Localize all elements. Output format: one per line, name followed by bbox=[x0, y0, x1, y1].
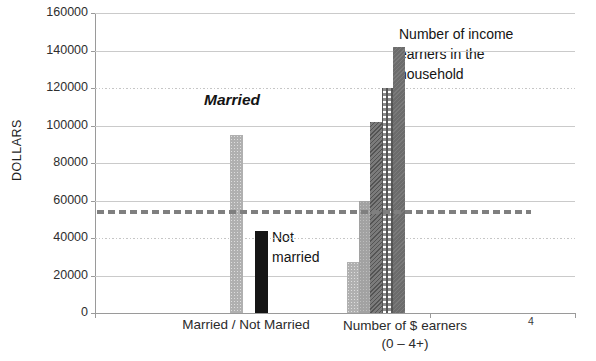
y-axis-tick bbox=[91, 51, 95, 52]
annotation-married: Married bbox=[204, 91, 260, 109]
x-axis-category-earners-line1: Number of $ earners bbox=[325, 317, 485, 335]
y-axis-tick-label: 160000 bbox=[32, 5, 88, 19]
bar-0 bbox=[347, 262, 359, 313]
y-axis-tick-label: 60000 bbox=[32, 193, 88, 207]
x-axis-line bbox=[95, 313, 576, 314]
y-axis-tick bbox=[91, 238, 95, 239]
gridline bbox=[95, 51, 575, 52]
gridline bbox=[95, 238, 575, 239]
gridline bbox=[95, 88, 575, 89]
y-axis-tick bbox=[91, 13, 95, 14]
gridline bbox=[95, 126, 575, 127]
x-axis-tick bbox=[430, 314, 431, 318]
x-axis-category-married: Married / Not Married bbox=[146, 317, 346, 332]
x-axis-tick bbox=[95, 314, 96, 318]
y-axis-tick-label: 140000 bbox=[32, 43, 88, 57]
annotation-not-married: Not married bbox=[272, 228, 336, 267]
bar-4+ bbox=[393, 47, 405, 313]
bar-2 bbox=[370, 122, 382, 313]
y-axis-tick bbox=[91, 201, 95, 202]
x-axis-category-earners: Number of $ earners (0 – 4+) bbox=[325, 317, 485, 353]
x-axis-tick bbox=[575, 314, 576, 318]
y-axis-tick-label: 40000 bbox=[32, 230, 88, 244]
page-number: 4 bbox=[528, 315, 534, 327]
gridline bbox=[95, 276, 575, 277]
bar-married bbox=[230, 135, 243, 313]
gridline bbox=[95, 13, 575, 14]
y-axis-tick-label: 20000 bbox=[32, 268, 88, 282]
x-axis-category-earners-line2: (0 – 4+) bbox=[325, 335, 485, 353]
y-axis-tick-label: 0 bbox=[32, 305, 88, 319]
y-axis-tick bbox=[91, 276, 95, 277]
bar-1 bbox=[359, 201, 371, 314]
gridline bbox=[95, 163, 575, 164]
y-axis-title: DOLLARS bbox=[10, 109, 24, 191]
annotation-income-earners: Number of income earners in the househol… bbox=[399, 24, 531, 84]
y-axis-tick-label: 80000 bbox=[32, 155, 88, 169]
y-axis-tick bbox=[91, 126, 95, 127]
y-axis-tick-label: 100000 bbox=[32, 118, 88, 132]
y-axis-tick bbox=[91, 88, 95, 89]
chart-canvas: DOLLARS Married Not married Number of in… bbox=[0, 0, 596, 361]
bar-3 bbox=[382, 88, 394, 313]
gridline bbox=[95, 201, 575, 202]
y-axis-tick bbox=[91, 163, 95, 164]
y-axis-tick-label: 120000 bbox=[32, 80, 88, 94]
bar-not-married bbox=[255, 231, 268, 314]
reference-dashed-line bbox=[97, 210, 531, 214]
